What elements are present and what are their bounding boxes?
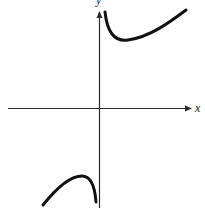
lower-branch-curve xyxy=(43,176,96,205)
upper-branch-curve xyxy=(105,10,186,40)
function-graph: x y xyxy=(0,0,205,211)
x-axis-label: x xyxy=(194,101,201,115)
y-axis-label: y xyxy=(95,0,102,7)
